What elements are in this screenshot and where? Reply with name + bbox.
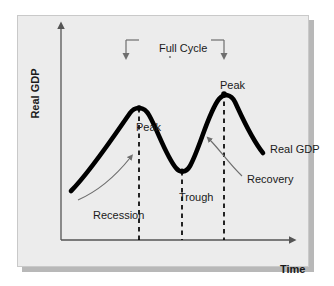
label-trough: Trough bbox=[179, 192, 213, 203]
y-axis-label: Real GDP bbox=[30, 64, 41, 124]
marker-peak-1 bbox=[136, 105, 142, 111]
recession-pointer-arrow bbox=[78, 158, 130, 200]
label-recovery: Recovery bbox=[247, 174, 293, 185]
label-recession: Recession bbox=[93, 210, 144, 221]
label-peak-first: Peak bbox=[136, 122, 161, 133]
real-gdp-curve bbox=[71, 95, 263, 191]
label-real-gdp-curve: Real GDP bbox=[270, 144, 320, 155]
marker-peak-2 bbox=[221, 91, 227, 97]
label-full-cycle: Full Cycle bbox=[159, 43, 207, 54]
label-peak-second: Peak bbox=[220, 80, 245, 91]
figure-panel: Full Cycle Peak Peak Trough Recession Re… bbox=[17, 15, 309, 267]
full-cycle-center-dot bbox=[169, 56, 171, 58]
business-cycle-figure: Full Cycle Peak Peak Trough Recession Re… bbox=[0, 0, 334, 286]
x-axis-label: Time bbox=[280, 264, 305, 275]
recovery-pointer-arrow bbox=[210, 140, 242, 176]
marker-trough bbox=[179, 168, 184, 173]
